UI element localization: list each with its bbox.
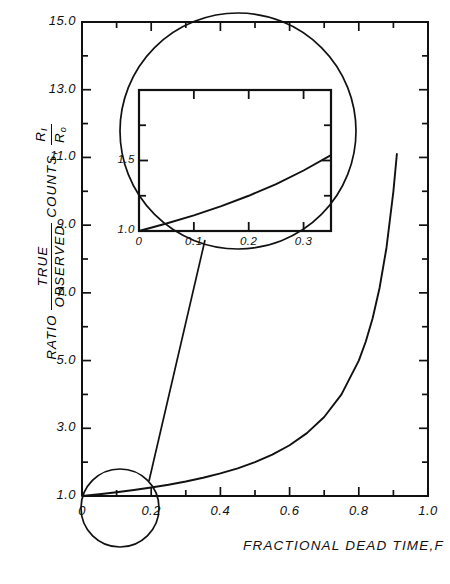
y-axis-title-symbol-numerator: RI	[34, 124, 51, 145]
axis-ticks	[82, 22, 428, 496]
inset-axis-ticks	[139, 90, 331, 231]
y-axis-title-prefix: RATIO	[44, 315, 59, 360]
y-axis-title-denominator: OBSERVED	[52, 223, 67, 310]
inset-x-tick-label: 0.2	[233, 235, 265, 247]
inset-curve	[139, 155, 331, 231]
inset-frame	[139, 90, 331, 231]
figure-canvas: 1.03.05.07.09.011.013.015.0 00.20.40.60.…	[0, 0, 450, 584]
magnifier-connector	[149, 240, 205, 481]
magnifier-group	[81, 13, 356, 547]
y-tick-label: 3.0	[40, 419, 76, 434]
x-tick-label: 0.8	[341, 503, 377, 518]
y-axis-title: RATIO TRUE OBSERVED COUNTS, RI Ro	[31, 117, 71, 367]
plot-frame	[82, 22, 428, 496]
inset-y-tick-label: 1.0	[103, 223, 135, 235]
x-tick-label: 1.0	[410, 503, 446, 518]
detail-circle-enlarged	[120, 13, 356, 249]
x-tick-label: 0.4	[202, 503, 238, 518]
x-tick-label: 0.2	[133, 503, 169, 518]
y-tick-label: 15.0	[40, 13, 76, 28]
y-tick-label: 13.0	[40, 81, 76, 96]
x-tick-label: 0	[64, 503, 100, 518]
inset-x-tick-label: 0	[123, 235, 155, 247]
y-axis-title-suffix: COUNTS,	[44, 150, 59, 218]
inset-x-tick-label: 0.3	[288, 235, 320, 247]
main-curve	[82, 154, 397, 496]
x-tick-label: 0.6	[272, 503, 308, 518]
y-axis-title-numerator: TRUE	[36, 223, 52, 310]
y-axis-title-symbol-denominator: Ro	[52, 124, 68, 145]
x-axis-title: FRACTIONAL DEAD TIME,F	[243, 538, 444, 553]
y-tick-label: 1.0	[40, 487, 76, 502]
inset-x-tick-label: 0.1	[178, 235, 210, 247]
y-axis-title-symbol-fraction: RI Ro	[34, 124, 68, 145]
y-axis-title-fraction: TRUE OBSERVED	[36, 223, 66, 310]
inset-y-tick-label: 1.5	[103, 153, 135, 165]
